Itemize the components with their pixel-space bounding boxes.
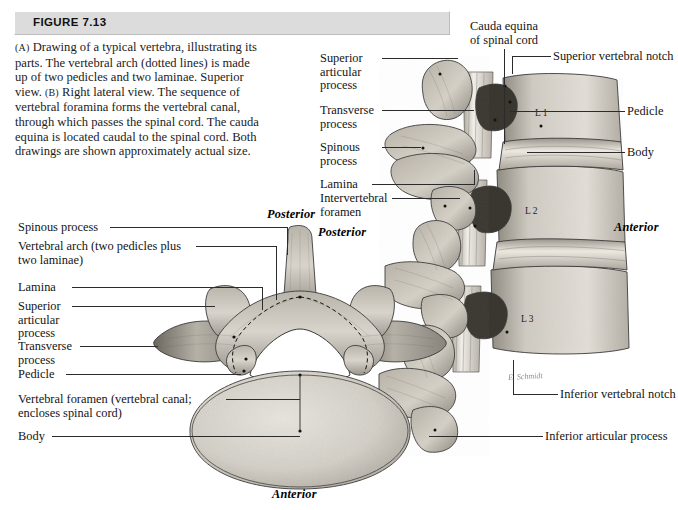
label-transverse-process-superior: Transverse process	[18, 340, 78, 367]
label-spinous-process-lateral: Spinous process	[320, 141, 382, 168]
leader-superior-articular-process-lateral	[382, 58, 458, 59]
direction-anterior-lateral: Anterior	[614, 220, 659, 235]
leader-spinous-process-lateral	[382, 147, 421, 148]
label-superior-vertebral-notch: Superior vertebral notch	[553, 50, 673, 64]
figure-number-label: FIGURE 7.13	[33, 16, 106, 28]
leader-pedicle-superior	[66, 374, 241, 375]
label-spinous-process-superior: Spinous process	[18, 221, 98, 235]
label-superior-articular-process-superior: Superior articular process	[18, 300, 78, 341]
vertebra-level-l1: L 1	[535, 108, 548, 118]
leader-intervertebral-foramen	[392, 198, 460, 199]
leader-lamina-lateral	[372, 184, 475, 185]
leader-vertebral-foramen	[226, 399, 300, 400]
label-body-superior: Body	[18, 430, 45, 444]
label-pedicle-superior: Pedicle	[18, 368, 54, 382]
label-body-lateral: Body	[627, 146, 654, 160]
leader-inferior-vertebral-notch	[513, 394, 558, 395]
leader-lamina-superior-riser	[262, 287, 263, 310]
leader-spinous-process-superior-riser	[287, 227, 288, 255]
vertebra-level-l2: L 2	[525, 206, 538, 216]
leader-body-superior	[52, 436, 300, 437]
label-lamina-superior: Lamina	[18, 281, 56, 295]
leader-lamina-superior	[72, 287, 262, 288]
label-pedicle-lateral: Pedicle	[627, 105, 663, 119]
leader-superior-vertebral-notch-riser	[512, 56, 513, 74]
figure-caption: (A) Drawing of a typical vertebra, illus…	[15, 40, 263, 159]
artist-signature: E. Schmidt	[508, 371, 543, 382]
direction-posterior-superior: Posterior	[267, 207, 315, 222]
leader-transverse-process-superior	[80, 346, 158, 347]
label-vertebral-foramen: Vertebral foramen (vertebral canal; encl…	[18, 393, 230, 420]
leader-transverse-process-lateral	[382, 110, 474, 111]
leader-lamina-lateral-riser	[474, 170, 475, 185]
leader-pedicle-lateral	[510, 111, 625, 112]
label-intervertebral-foramen: Intervertebral foramen	[320, 192, 390, 219]
label-cauda-equina: Cauda equina of spinal cord	[459, 20, 549, 47]
vertebra-level-l3: L 3	[521, 314, 534, 324]
label-inferior-vertebral-notch: Inferior vertebral notch	[560, 388, 676, 402]
direction-posterior-lateral: Posterior	[318, 225, 366, 240]
direction-anterior-superior: Anterior	[272, 487, 317, 502]
leader-body-lateral	[527, 152, 625, 153]
label-vertebral-arch: Vertebral arch (two pedicles plus two la…	[18, 240, 226, 267]
label-inferior-articular-process: Inferior articular process	[545, 430, 667, 444]
leader-superior-vertebral-notch	[512, 56, 551, 57]
leader-cauda-equina	[504, 49, 505, 144]
leader-vertebral-arch	[196, 246, 276, 247]
caption-part-b-marker: (B)	[45, 87, 59, 98]
leader-vertebral-arch-riser	[276, 246, 277, 300]
leader-spinous-process-superior	[110, 227, 287, 228]
caption-part-a-marker: (A)	[15, 42, 29, 53]
label-superior-articular-process-lateral: Superior articular process	[320, 52, 382, 93]
leader-superior-articular-process-superior	[72, 306, 215, 307]
label-transverse-process-lateral: Transverse process	[320, 104, 382, 131]
leader-inferior-articular-process	[429, 436, 543, 437]
